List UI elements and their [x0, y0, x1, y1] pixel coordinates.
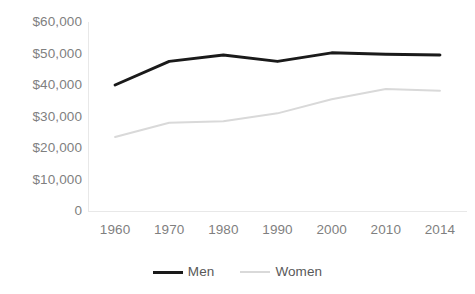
y-axis-tick-labels: $60,000$50,000$40,000$30,000$20,000$10,0…: [0, 0, 82, 294]
legend-swatch-icon: [240, 271, 270, 273]
x-tick-label: 1990: [262, 222, 292, 238]
chart-legend: MenWomen: [0, 258, 475, 286]
y-tick-label: $10,000: [0, 173, 82, 187]
legend-label: Women: [275, 264, 322, 280]
x-tick-label: 1970: [154, 222, 184, 238]
x-tick-label: 2000: [316, 222, 346, 238]
legend-label: Men: [188, 264, 215, 280]
line-chart: $60,000$50,000$40,000$30,000$20,000$10,0…: [0, 0, 475, 294]
series-line-men: [115, 53, 440, 85]
x-tick-label: 1960: [100, 222, 130, 238]
y-tick-label: $20,000: [0, 141, 82, 155]
y-tick-label: 0: [0, 204, 82, 218]
y-tick-label: $60,000: [0, 15, 82, 29]
x-tick-label: 2014: [425, 222, 455, 238]
legend-entry-men[interactable]: Men: [153, 264, 215, 280]
y-tick-label: $40,000: [0, 78, 82, 92]
x-tick-label: 2010: [371, 222, 401, 238]
series-lines: [88, 22, 467, 211]
x-axis-tick-labels: 1960197019801990200020102014: [88, 222, 467, 244]
legend-swatch-icon: [153, 271, 183, 274]
plot-area: [88, 22, 467, 211]
x-tick-label: 1980: [208, 222, 238, 238]
legend-entry-women[interactable]: Women: [240, 264, 322, 280]
x-axis-line: [88, 211, 467, 212]
series-line-women: [115, 89, 440, 137]
y-tick-label: $30,000: [0, 110, 82, 124]
y-tick-label: $50,000: [0, 47, 82, 61]
